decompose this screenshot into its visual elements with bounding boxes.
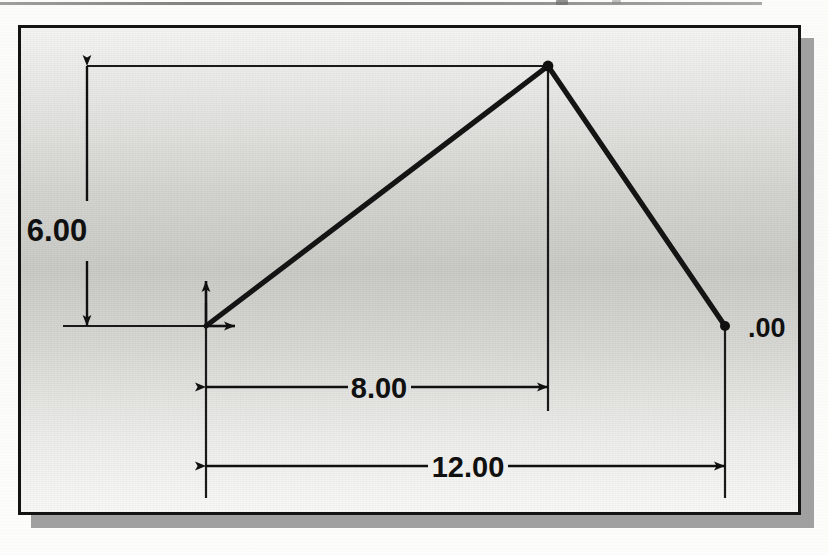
drawing-canvas[interactable]: 6.00 bbox=[21, 28, 798, 512]
right-vertex-dimension-label[interactable]: .00 bbox=[748, 313, 786, 343]
ink-speck-left bbox=[556, 0, 568, 5]
apex-offset-dimension-label: 8.00 bbox=[351, 372, 407, 404]
height-dimension[interactable]: 6.00 bbox=[27, 66, 87, 326]
overall-width-dimension[interactable]: 12.00 bbox=[206, 451, 725, 483]
coordinate-origin-marker[interactable] bbox=[206, 281, 235, 326]
right-vertex-point bbox=[720, 321, 730, 331]
overall-width-dimension-label: 12.00 bbox=[432, 451, 505, 483]
drawing-frame: 6.00 bbox=[18, 25, 801, 515]
top-horizontal-rule bbox=[0, 2, 762, 5]
ink-speck-right bbox=[612, 0, 621, 4]
height-dimension-label: 6.00 bbox=[27, 213, 87, 248]
apex-offset-dimension[interactable]: 8.00 bbox=[206, 372, 548, 404]
profile-polyline bbox=[206, 66, 725, 326]
profile-outline[interactable] bbox=[206, 66, 725, 326]
technical-drawing-svg: 6.00 bbox=[21, 28, 798, 512]
extension-lines bbox=[63, 66, 725, 498]
scanned-page: 6.00 bbox=[0, 0, 828, 555]
apex-vertex-point bbox=[543, 61, 554, 72]
